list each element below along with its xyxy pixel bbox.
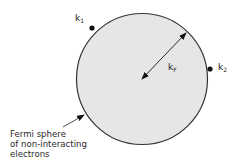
fermi-sphere-caption: Fermi sphere of non-interacting electron… <box>10 129 87 159</box>
k1-label-sub: 1 <box>80 17 84 24</box>
caption-line-1: Fermi sphere <box>10 129 87 139</box>
k1-label: k1 <box>75 13 84 26</box>
k2-point <box>207 66 212 71</box>
k2-label-sub: 2 <box>223 66 227 73</box>
caption-line-2: of non-interacting <box>10 139 87 149</box>
caption-pointer-arrow <box>63 115 84 127</box>
kf-label-sub: F <box>173 66 176 73</box>
kf-label: kF <box>168 62 177 75</box>
k2-label: k2 <box>218 62 227 75</box>
k1-point <box>89 25 94 30</box>
caption-line-3: electrons <box>10 149 87 159</box>
